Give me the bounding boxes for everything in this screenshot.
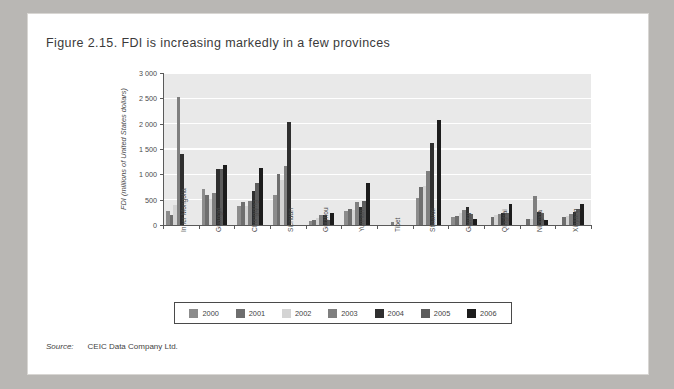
x-axis-category-label: Tibet bbox=[394, 218, 401, 232]
bar-chart: FDI (millions of United States dollars) … bbox=[131, 73, 591, 243]
legend-item-2002[interactable]: 2002 bbox=[282, 309, 311, 318]
y-axis-tick bbox=[160, 200, 164, 201]
x-axis-tick bbox=[377, 225, 378, 229]
x-axis-category-label: Gansu bbox=[465, 213, 472, 232]
legend-label: 2001 bbox=[249, 309, 265, 318]
bar bbox=[509, 204, 513, 225]
x-axis-category-label: Qinghai bbox=[501, 209, 508, 232]
bar bbox=[259, 168, 263, 225]
y-axis-tick bbox=[160, 174, 164, 175]
legend-label: 2005 bbox=[434, 309, 450, 318]
bar-group bbox=[202, 73, 238, 225]
plot-area bbox=[163, 73, 591, 225]
chart-legend: 2000200120022003200420052006 bbox=[174, 302, 512, 324]
legend-item-2006[interactable]: 2006 bbox=[467, 309, 496, 318]
legend-label: 2000 bbox=[202, 309, 218, 318]
bar-group bbox=[309, 73, 345, 225]
bar bbox=[437, 120, 441, 225]
x-axis-category-label: Ningxia bbox=[536, 210, 543, 232]
bar bbox=[330, 213, 334, 225]
y-axis-tick-label: 500 bbox=[127, 195, 157, 204]
y-axis-tick-label: 1 500 bbox=[127, 145, 157, 154]
x-axis-tick bbox=[448, 225, 449, 229]
x-axis-tick bbox=[341, 225, 342, 229]
bar-group bbox=[558, 73, 594, 225]
x-axis-category-label: Chongqing bbox=[251, 200, 258, 232]
y-axis-tick bbox=[160, 124, 164, 125]
x-axis-tick bbox=[591, 225, 592, 229]
legend-swatch-icon bbox=[282, 309, 291, 318]
figure-page: Figure 2.15. FDI is increasing markedly … bbox=[28, 14, 648, 374]
legend-label: 2003 bbox=[341, 309, 357, 318]
legend-item-2001[interactable]: 2001 bbox=[236, 309, 265, 318]
y-axis-tick bbox=[160, 149, 164, 150]
y-axis-tick-label: 1 000 bbox=[127, 170, 157, 179]
figure-title: Figure 2.15. FDI is increasing markedly … bbox=[46, 36, 390, 50]
x-axis-category-label: Guangxi bbox=[215, 207, 222, 232]
y-axis-tick-label: 2 000 bbox=[127, 119, 157, 128]
y-axis-tick-label: 2 500 bbox=[127, 94, 157, 103]
x-axis-category-label: Guizhou bbox=[322, 207, 329, 232]
legend-swatch-icon bbox=[467, 309, 476, 318]
source-text: CEIC Data Company Ltd. bbox=[88, 342, 178, 351]
x-axis-tick bbox=[234, 225, 235, 229]
legend-item-2004[interactable]: 2004 bbox=[375, 309, 404, 318]
source-note: Source: CEIC Data Company Ltd. bbox=[46, 342, 178, 351]
x-axis-tick bbox=[555, 225, 556, 229]
bar-group bbox=[344, 73, 380, 225]
x-axis-tick bbox=[413, 225, 414, 229]
legend-label: 2006 bbox=[480, 309, 496, 318]
x-axis-category-label: Inner Mongolia bbox=[180, 188, 187, 232]
bar bbox=[366, 183, 370, 225]
y-axis-tick bbox=[160, 98, 164, 99]
bar-group bbox=[523, 73, 559, 225]
legend-swatch-icon bbox=[189, 309, 198, 318]
y-axis-tick-label: 0 bbox=[127, 221, 157, 230]
legend-label: 2002 bbox=[295, 309, 311, 318]
x-axis-tick bbox=[270, 225, 271, 229]
x-axis-category-label: Sichuan bbox=[287, 208, 294, 232]
legend-label: 2004 bbox=[388, 309, 404, 318]
x-axis-category-label: Yunnan bbox=[358, 210, 365, 232]
bar bbox=[223, 165, 227, 225]
legend-swatch-icon bbox=[328, 309, 337, 318]
bar-group bbox=[487, 73, 523, 225]
bar-group bbox=[273, 73, 309, 225]
x-axis-category-label: Shaanxi bbox=[429, 208, 436, 232]
y-axis-tick bbox=[160, 73, 164, 74]
legend-item-2005[interactable]: 2005 bbox=[421, 309, 450, 318]
legend-swatch-icon bbox=[236, 309, 245, 318]
bar bbox=[580, 204, 584, 225]
legend-swatch-icon bbox=[421, 309, 430, 318]
bar-group bbox=[380, 73, 416, 225]
source-label: Source: bbox=[46, 342, 74, 351]
x-axis-tick bbox=[306, 225, 307, 229]
bar-group bbox=[451, 73, 487, 225]
legend-item-2000[interactable]: 2000 bbox=[189, 309, 218, 318]
x-axis-tick bbox=[163, 225, 164, 229]
bar-group bbox=[416, 73, 452, 225]
y-axis-tick-label: 3 000 bbox=[127, 69, 157, 78]
x-axis-tick bbox=[199, 225, 200, 229]
x-axis-tick bbox=[484, 225, 485, 229]
x-axis-category-label: Xinjiang bbox=[572, 209, 579, 232]
legend-item-2003[interactable]: 2003 bbox=[328, 309, 357, 318]
legend-swatch-icon bbox=[375, 309, 384, 318]
x-axis-tick bbox=[520, 225, 521, 229]
